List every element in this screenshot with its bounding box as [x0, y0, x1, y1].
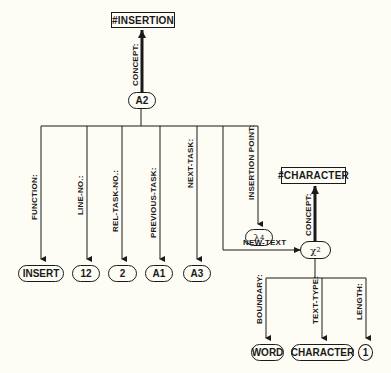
sub-slot-label-boundary: BOUNDARY: — [255, 274, 264, 324]
slot-label-previous-task: PREVIOUS-TASK: — [149, 167, 158, 238]
slot-label-function: FUNCTION: — [30, 174, 39, 220]
root-node-a2: A2 — [128, 92, 156, 109]
slot-value-insert: INSERT — [18, 265, 64, 282]
sub-slot-value-word: WORD — [251, 344, 284, 361]
new-text-label: NEW-TEXT — [243, 238, 286, 247]
slot-label-rel-task-no: REL-TASK-NO.: — [111, 170, 120, 232]
sub-slot-value-character: CHARACTER — [291, 344, 354, 361]
slot-value-a3: A3 — [183, 265, 211, 282]
slot-label-insertion-point: INSERTION POINT: — [247, 125, 256, 200]
sub-slot-value-1: 1 — [358, 344, 373, 361]
slot-label-next-task: NEXT-TASK: — [186, 139, 195, 188]
concept-box-insertion: #INSERTION — [111, 12, 175, 28]
sub-concept-label: CONCEPT: — [304, 194, 313, 237]
sub-slot-label-text-type: TEXT-TYPE: — [311, 276, 320, 324]
slot-label-line-no: LINE-NO.: — [76, 175, 85, 215]
concept-box-character: #CHARACTER — [281, 167, 346, 184]
slot-value-a1: A1 — [145, 265, 173, 282]
chi-subscript: 2 — [316, 246, 320, 254]
diagram-connectors — [0, 0, 391, 373]
slot-value-2: 2 — [108, 265, 137, 282]
slot-value-12: 12 — [72, 265, 100, 282]
concept-label: CONCEPT: — [131, 44, 140, 87]
sub-slot-label-length: LENGTH: — [355, 283, 364, 320]
sub-node-chi2: χ2 — [300, 241, 331, 259]
